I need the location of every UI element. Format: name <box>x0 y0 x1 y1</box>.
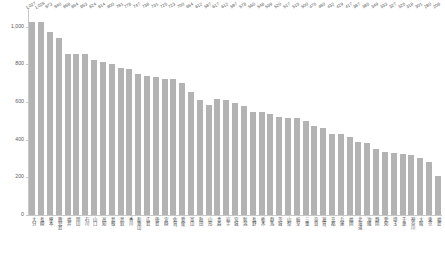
bar[interactable]: 654 <box>188 92 194 215</box>
bar-item[interactable]: 1,027 <box>28 8 37 215</box>
bar[interactable]: 1,026 <box>38 22 44 215</box>
bar[interactable]: 208 <box>435 176 441 215</box>
bar[interactable]: 747 <box>135 74 141 215</box>
bar-item[interactable]: 429 <box>336 8 345 215</box>
bar-item[interactable]: 617 <box>213 8 222 215</box>
bar-item[interactable]: 475 <box>310 8 319 215</box>
bar-item[interactable]: 973 <box>46 8 55 215</box>
bar[interactable]: 973 <box>47 32 53 215</box>
bar[interactable]: 612 <box>223 100 229 215</box>
bar[interactable]: 597 <box>232 103 238 215</box>
bar[interactable]: 617 <box>214 99 220 215</box>
bar-item[interactable]: 325 <box>398 8 407 215</box>
bar-item[interactable]: 814 <box>99 8 108 215</box>
bar[interactable]: 325 <box>400 154 406 215</box>
bar-item[interactable]: 520 <box>275 8 284 215</box>
bar-item[interactable]: 517 <box>284 8 293 215</box>
bar[interactable]: 853 <box>82 54 88 215</box>
bar-item[interactable]: 800 <box>107 8 116 215</box>
bar[interactable]: 429 <box>338 134 344 215</box>
bar[interactable]: 940 <box>56 38 62 215</box>
bar[interactable]: 349 <box>373 149 379 215</box>
bar-item[interactable]: 853 <box>81 8 90 215</box>
bar[interactable]: 858 <box>65 54 71 215</box>
bar[interactable]: 318 <box>408 155 414 215</box>
bar[interactable]: 385 <box>364 143 370 215</box>
bar-item[interactable]: 280 <box>425 8 434 215</box>
bar[interactable]: 578 <box>241 106 247 215</box>
bar-item[interactable]: 700 <box>178 8 187 215</box>
bar-item[interactable]: 548 <box>257 8 266 215</box>
x-axis-category-cell: 島根 <box>107 217 116 253</box>
bar[interactable]: 738 <box>144 76 150 215</box>
bar[interactable]: 327 <box>391 153 397 215</box>
bar-item[interactable]: 854 <box>72 8 81 215</box>
bar-item[interactable]: 597 <box>231 8 240 215</box>
bar[interactable]: 723 <box>170 79 176 215</box>
bar-item[interactable]: 539 <box>266 8 275 215</box>
bar-item[interactable]: 387 <box>354 8 363 215</box>
bar-item[interactable]: 460 <box>319 8 328 215</box>
x-axis-category-label: 大阪 <box>418 217 422 225</box>
bar-item[interactable]: 432 <box>328 8 337 215</box>
bar-item[interactable]: 500 <box>301 8 310 215</box>
bar-item[interactable]: 654 <box>187 8 196 215</box>
bar-item[interactable]: 349 <box>372 8 381 215</box>
bar[interactable]: 824 <box>91 60 97 215</box>
bar-item[interactable]: 858 <box>63 8 72 215</box>
bar[interactable]: 432 <box>329 134 335 215</box>
bar-item[interactable]: 208 <box>433 8 442 215</box>
bar-item[interactable]: 781 <box>116 8 125 215</box>
bar-item[interactable]: 333 <box>381 8 390 215</box>
bar-item[interactable]: 612 <box>222 8 231 215</box>
bar[interactable]: 587 <box>206 105 212 215</box>
bar[interactable]: 301 <box>417 158 423 215</box>
bar[interactable]: 731 <box>153 77 159 215</box>
bar[interactable]: 612 <box>197 100 203 215</box>
bar[interactable]: 854 <box>73 54 79 215</box>
bar-item[interactable]: 578 <box>240 8 249 215</box>
bar[interactable]: 517 <box>285 118 291 215</box>
bar[interactable]: 280 <box>426 162 432 215</box>
bar[interactable]: 475 <box>311 126 317 215</box>
bar-item[interactable]: 417 <box>345 8 354 215</box>
bar-item[interactable]: 738 <box>143 8 152 215</box>
bar[interactable]: 548 <box>259 112 265 215</box>
bar-item[interactable]: 327 <box>389 8 398 215</box>
bar-item[interactable]: 1,026 <box>37 8 46 215</box>
bar[interactable]: 460 <box>320 128 326 215</box>
bar[interactable]: 800 <box>109 64 115 215</box>
bar-item[interactable]: 587 <box>204 8 213 215</box>
bar[interactable]: 539 <box>267 114 273 215</box>
bar-item[interactable]: 515 <box>292 8 301 215</box>
bar[interactable]: 520 <box>276 117 282 215</box>
bar[interactable]: 781 <box>118 68 124 215</box>
bar[interactable]: 1,027 <box>29 22 35 215</box>
bar-item[interactable]: 318 <box>407 8 416 215</box>
bar[interactable]: 387 <box>355 142 361 215</box>
bar[interactable]: 550 <box>250 112 256 216</box>
x-axis-category-cell: 北海道 <box>354 217 363 253</box>
bar[interactable]: 515 <box>294 118 300 215</box>
bar-item[interactable]: 824 <box>90 8 99 215</box>
bar-item[interactable]: 725 <box>160 8 169 215</box>
bar[interactable]: 500 <box>303 121 309 215</box>
bar[interactable]: 333 <box>382 152 388 215</box>
bar-item[interactable]: 940 <box>54 8 63 215</box>
bar[interactable]: 417 <box>347 137 353 215</box>
bar-item[interactable]: 385 <box>363 8 372 215</box>
bar-item[interactable]: 747 <box>134 8 143 215</box>
bar-item[interactable]: 731 <box>151 8 160 215</box>
bar-item[interactable]: 550 <box>248 8 257 215</box>
bar[interactable]: 725 <box>162 79 168 215</box>
x-axis-category-label: 鳥取 <box>118 217 122 225</box>
x-axis-category-label: 神奈川 <box>409 217 413 229</box>
bar[interactable]: 778 <box>126 69 132 215</box>
bar-item[interactable]: 723 <box>169 8 178 215</box>
x-axis-category-cell: 大分 <box>28 217 37 253</box>
bar[interactable]: 814 <box>100 62 106 215</box>
bar-item[interactable]: 301 <box>416 8 425 215</box>
bar[interactable]: 700 <box>179 83 185 215</box>
bar-item[interactable]: 778 <box>125 8 134 215</box>
bar-item[interactable]: 612 <box>195 8 204 215</box>
